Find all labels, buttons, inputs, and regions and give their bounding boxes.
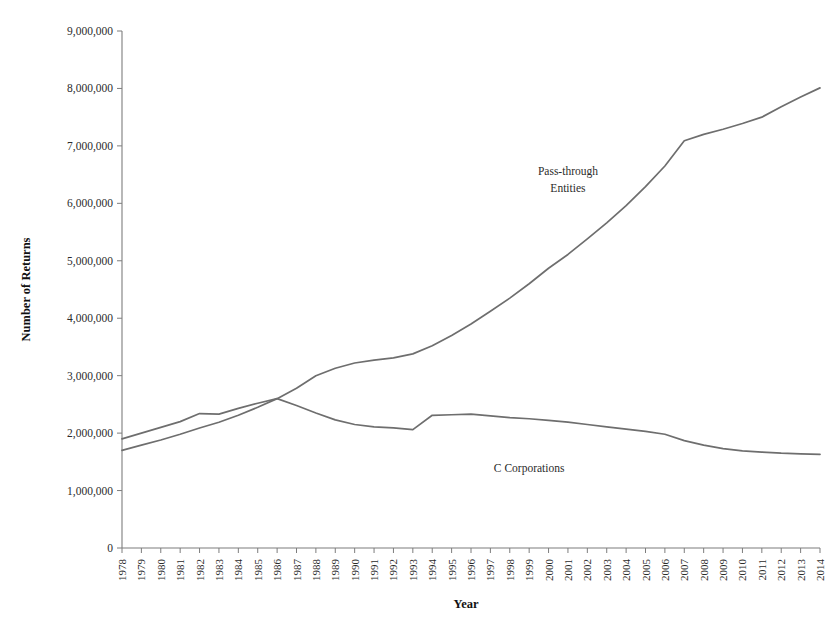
x-tick-label: 2011 xyxy=(756,559,768,581)
series-line-c-corporations xyxy=(122,399,820,455)
x-tick-label: 1994 xyxy=(426,559,438,582)
series-label-c-corporations: C Corporations xyxy=(494,462,565,475)
x-tick-label: 2008 xyxy=(698,559,710,582)
x-tick-label: 2001 xyxy=(562,559,574,581)
y-tick-label: 4,000,000 xyxy=(67,312,113,325)
series-annotations: Pass-throughEntitiesC Corporations xyxy=(494,165,598,475)
x-tick-label: 1997 xyxy=(484,559,496,582)
y-tick-label: 8,000,000 xyxy=(67,82,113,95)
y-tick-label: 3,000,000 xyxy=(67,370,113,383)
x-tick-label: 2000 xyxy=(543,559,555,582)
x-tick-label: 2003 xyxy=(601,559,613,582)
x-tick-label: 1984 xyxy=(232,559,244,582)
x-axis-title: Year xyxy=(454,597,479,611)
x-tick-label: 1986 xyxy=(271,559,283,582)
x-tick-label: 2004 xyxy=(620,559,632,582)
x-tick-label: 1988 xyxy=(310,559,322,582)
y-tick-label: 0 xyxy=(107,542,113,554)
x-tick-label: 1979 xyxy=(135,559,147,582)
y-tick-label: 1,000,000 xyxy=(67,485,113,498)
x-tick-label: 1978 xyxy=(116,559,128,582)
x-tick-label: 1999 xyxy=(523,559,535,582)
x-tick-label: 1981 xyxy=(174,559,186,581)
x-tick-label: 1987 xyxy=(291,559,303,582)
x-tick-label: 1991 xyxy=(368,559,380,581)
x-tick-label: 2014 xyxy=(814,559,826,582)
y-tick-label: 2,000,000 xyxy=(67,427,113,440)
chart-container: 01,000,0002,000,0003,000,0004,000,0005,0… xyxy=(0,0,837,622)
x-tick-label: 1993 xyxy=(407,559,419,582)
x-tick-label: 2010 xyxy=(736,559,748,582)
x-tick-label: 1989 xyxy=(329,559,341,582)
x-tick-label: 1996 xyxy=(465,559,477,582)
x-tick-label: 1982 xyxy=(194,559,206,581)
x-tick-label: 2006 xyxy=(659,559,671,582)
x-tick-label: 1983 xyxy=(213,559,225,582)
x-tick-label: 2002 xyxy=(581,559,593,581)
y-axis-title: Number of Returns xyxy=(19,237,33,341)
x-tick-label: 2005 xyxy=(640,559,652,582)
x-axis: 1978197919801981198219831984198519861987… xyxy=(116,548,826,581)
x-tick-label: 2012 xyxy=(775,559,787,581)
series-label-pass-through-entities-line2: Entities xyxy=(550,182,586,194)
x-tick-label: 2009 xyxy=(717,559,729,582)
x-tick-label: 1990 xyxy=(349,559,361,582)
y-tick-label: 6,000,000 xyxy=(67,197,113,210)
x-tick-label: 1980 xyxy=(155,559,167,582)
x-tick-label: 2013 xyxy=(795,559,807,582)
y-axis: 01,000,0002,000,0003,000,0004,000,0005,0… xyxy=(67,25,122,554)
x-tick-label: 1995 xyxy=(446,559,458,582)
series-label-pass-through-entities: Pass-through xyxy=(538,165,598,178)
x-tick-label: 1992 xyxy=(387,559,399,581)
y-tick-label: 9,000,000 xyxy=(67,25,113,38)
line-chart: 01,000,0002,000,0003,000,0004,000,0005,0… xyxy=(0,0,837,622)
x-tick-label: 2007 xyxy=(678,559,690,582)
y-tick-label: 5,000,000 xyxy=(67,255,113,268)
series-group xyxy=(122,88,820,455)
series-line-pass-through-entities xyxy=(122,88,820,450)
x-tick-label: 1998 xyxy=(504,559,516,582)
x-tick-label: 1985 xyxy=(252,559,264,582)
y-tick-label: 7,000,000 xyxy=(67,140,113,153)
